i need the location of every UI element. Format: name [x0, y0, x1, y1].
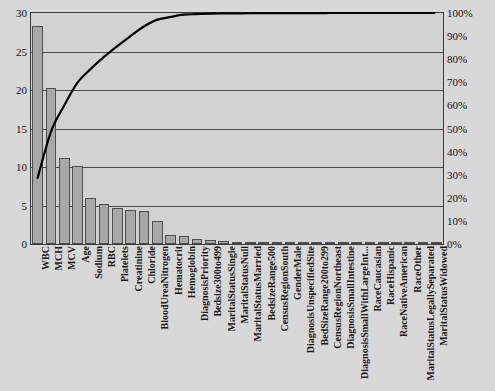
x-axis-labels: WBCMCHMCVAgeSodiumRBCPlateletsCreatinine…	[30, 246, 444, 391]
x-axis-tick-label: RaceOther	[413, 246, 423, 293]
y-axis-left-tick: 30	[1, 8, 27, 19]
x-axis-tick-label: BedsizeRange500	[267, 246, 277, 320]
y-axis-left-tick: 5	[1, 200, 27, 211]
y-axis-right-tick: 90%	[447, 31, 491, 42]
x-axis-tick-label: RaceHispanic	[386, 246, 396, 305]
y-axis-left-tick: 25	[1, 46, 27, 57]
x-axis-tick-label: MaritalStatusMarried	[253, 246, 263, 342]
y-axis-right-tick: 40%	[447, 146, 491, 157]
x-axis-tick-label: MCV	[67, 246, 77, 270]
pareto-chart: 051015202530 0%10%20%30%40%50%60%70%80%9…	[0, 0, 495, 391]
x-axis-tick-label: MaritalStatusSingle	[227, 246, 237, 332]
y-axis-left-tick: 15	[1, 123, 27, 134]
y-axis-right: 0%10%20%30%40%50%60%70%80%90%100%	[447, 12, 493, 245]
x-axis-tick-label: MCH	[54, 246, 64, 270]
y-axis-right-tick: 30%	[447, 169, 491, 180]
y-axis-right-tick: 60%	[447, 100, 491, 111]
x-axis-tick-label: WBC	[41, 246, 51, 270]
x-axis-tick-label: GenderMale	[293, 246, 303, 300]
y-axis-left: 051015202530	[0, 12, 27, 245]
x-axis-tick-label: Sodium	[94, 246, 104, 279]
x-axis-tick-label: Age	[81, 246, 91, 263]
y-axis-left-tick: 10	[1, 162, 27, 173]
y-axis-right-tick: 70%	[447, 77, 491, 88]
x-axis-tick-label: RBC	[107, 246, 117, 267]
y-axis-left-tick: 20	[1, 85, 27, 96]
x-axis-tick-label: CensusRegionSouth	[280, 246, 290, 332]
x-axis-tick-label: RaceCaucasian	[373, 246, 383, 312]
x-axis-tick-label: Hematocrit	[174, 246, 184, 295]
y-axis-right-tick: 100%	[447, 8, 491, 19]
y-axis-right-tick: 20%	[447, 192, 491, 203]
x-axis-tick-label: Creatinine	[134, 246, 144, 291]
x-axis-tick-label: Platelets	[120, 246, 130, 282]
x-axis-tick-label: Hemoglobin	[187, 246, 197, 298]
x-axis-tick-label: DiagnosisSmallIntestine	[346, 246, 356, 349]
x-axis-tick-label: DiagnosisSmallWithLargeInt...	[360, 246, 370, 379]
x-axis-tick-label: MaritalStatusWidowed	[439, 246, 449, 346]
y-axis-right-tick: 0%	[447, 239, 491, 250]
x-axis-tick-label: DiagnosisUnspecifiedSite	[306, 246, 316, 353]
x-axis-tick-label: BloodUreaNitrogen	[160, 246, 170, 330]
x-axis-tick-label: Bedsize300to499	[213, 246, 223, 317]
x-axis-tick-label: Chloride	[147, 246, 157, 284]
x-axis-tick-label: MaritalStatusLegallySeparated	[426, 246, 436, 380]
plot-area	[30, 12, 444, 245]
y-axis-right-tick: 80%	[447, 54, 491, 65]
y-axis-right-tick: 50%	[447, 123, 491, 134]
x-axis-tick-label: BedSizeRange200to299	[320, 246, 330, 345]
x-axis-tick-label: CensusRegionNortheast	[333, 246, 343, 349]
cumulative-line	[31, 13, 443, 244]
cumulative-line-path	[38, 13, 435, 178]
y-axis-left-tick: 0	[1, 239, 27, 250]
x-axis-tick-label: RaceNativeAmerican	[399, 246, 409, 337]
x-axis-tick-label: MaritalStatusNull	[240, 246, 250, 324]
x-axis-tick-label: DiagnosisPriority	[200, 246, 210, 321]
y-axis-right-tick: 10%	[447, 215, 491, 226]
